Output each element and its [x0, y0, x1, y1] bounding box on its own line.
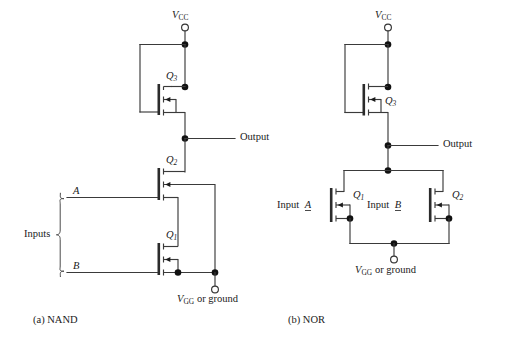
q2-label-nand: Q2 [166, 155, 177, 166]
q3-body-arrow-nand [165, 97, 170, 102]
vcc-terminal-nor [385, 24, 392, 31]
q3-label-nor: Q3 [385, 96, 396, 107]
q1-body-arrow-nand [165, 257, 170, 262]
q2-label-nor: Q2 [452, 190, 463, 201]
q1-label-nand: Q1 [166, 230, 177, 241]
vcc-terminal-nand [182, 24, 189, 31]
caption-nand: (a) NAND [33, 314, 78, 325]
q1-body-arrow-nor [338, 202, 343, 207]
output-label-nand: Output [240, 132, 269, 143]
ground-terminal-nand [212, 286, 219, 293]
q3-label-nand: Q3 [166, 71, 177, 82]
circuit-canvas [0, 0, 510, 351]
vgg-label-nand: VGG or ground [177, 294, 238, 305]
output-label-nor: Output [443, 139, 472, 150]
vcc-label-nand: VCC [172, 10, 188, 21]
nand-circuit [56, 24, 235, 293]
q2-body-arrow-nor [437, 202, 442, 207]
input-a-label-nand: A [73, 186, 79, 197]
input-b-label-nand: B [73, 261, 79, 272]
nor-circuit [331, 24, 452, 263]
q2-body-arrow-nand [165, 182, 170, 187]
vcc-label-nor: VCC [375, 10, 391, 21]
q3-body-arrow-nor [370, 97, 375, 102]
input-b-label-nor: Input B [367, 200, 401, 211]
vgg-label-nor: VGG or ground [355, 265, 416, 276]
inputs-brace-lower-nand [56, 199, 63, 272]
inputs-brace-tip-bottom-nand [60, 271, 63, 277]
q1-source-node-nand [175, 269, 182, 276]
figure-root: VCC Q3 Output Q2 Q1 Inputs A B VGG or gr… [0, 0, 510, 351]
q1-label-nor: Q1 [353, 190, 364, 201]
inputs-label-nand: Inputs [24, 229, 50, 240]
inputs-brace-tip-top-nand [60, 193, 63, 199]
ground-terminal-nor [391, 256, 398, 263]
input-a-label-nor: Input A [277, 200, 311, 211]
caption-nor: (b) NOR [288, 314, 325, 325]
